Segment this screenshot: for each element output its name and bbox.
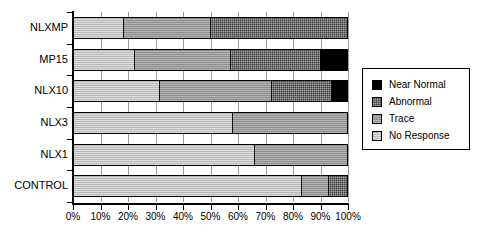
legend-item: Trace: [372, 110, 469, 127]
bar-segment: [301, 176, 328, 196]
bar-segment: [123, 18, 210, 38]
chart-figure: NLXMPMP15NLX10NLX3NLX1CONTROL 0%10%20%30…: [0, 0, 477, 232]
bar-segment: [331, 81, 347, 101]
x-axis-label: 20%: [118, 211, 138, 222]
gridline: [266, 12, 267, 202]
x-axis-label: 70%: [255, 211, 275, 222]
gridline: [238, 12, 239, 202]
x-axis-tick: [348, 205, 349, 210]
bar-segment: [210, 18, 347, 38]
legend-label: Abnormal: [389, 96, 432, 107]
gridline: [101, 12, 102, 202]
x-axis-label: 60%: [228, 211, 248, 222]
bar-segment: [74, 176, 301, 196]
legend-label: No Response: [389, 130, 450, 141]
bar-segment: [74, 50, 134, 70]
gridline: [321, 12, 322, 202]
y-axis-label: NLX1: [40, 148, 68, 160]
x-axis-tick: [156, 205, 157, 210]
x-axis-label: 40%: [173, 211, 193, 222]
gridline: [156, 12, 157, 202]
y-axis-tick: [67, 202, 73, 203]
x-axis-tick: [183, 205, 184, 210]
x-axis-tick: [293, 205, 294, 210]
y-axis-label: NLXMP: [30, 21, 68, 33]
bar-row: [73, 80, 348, 102]
bar-segment: [254, 145, 347, 165]
bar-segment: [74, 18, 123, 38]
gridline: [348, 12, 349, 202]
bar-segment: [271, 81, 331, 101]
legend: Near NormalAbnormalTraceNo Response: [362, 68, 470, 150]
bar-segment: [134, 50, 230, 70]
x-axis-label: 0%: [66, 211, 80, 222]
gridline: [183, 12, 184, 202]
bar-segment: [74, 81, 159, 101]
gridline: [211, 12, 212, 202]
x-axis-label: 80%: [283, 211, 303, 222]
legend-item: No Response: [372, 127, 469, 144]
x-axis-tick: [266, 205, 267, 210]
swatch-near-normal-icon: [372, 80, 382, 90]
bar-row: [73, 17, 348, 39]
x-axis-tick: [101, 205, 102, 210]
x-axis-tick: [211, 205, 212, 210]
bar-segment: [328, 176, 347, 196]
x-axis-tick: [238, 205, 239, 210]
swatch-trace-icon: [372, 114, 382, 124]
x-axis-tick: [128, 205, 129, 210]
plot-area: [73, 12, 348, 202]
x-axis-label: 50%: [200, 211, 220, 222]
y-axis-label: NLX10: [34, 84, 68, 96]
y-axis-label: NLX3: [40, 116, 68, 128]
x-axis-tick: [321, 205, 322, 210]
swatch-no-response-icon: [372, 131, 382, 141]
bar-segment: [320, 50, 347, 70]
x-axis-label: 30%: [145, 211, 165, 222]
y-axis-tick: [67, 75, 73, 76]
gridline: [128, 12, 129, 202]
gridline: [293, 12, 294, 202]
y-axis-tick: [67, 44, 73, 45]
bar-row: [73, 144, 348, 166]
bar-row: [73, 49, 348, 71]
y-axis-tick: [67, 139, 73, 140]
y-axis-tick: [67, 107, 73, 108]
bar-row: [73, 175, 348, 197]
swatch-abnormal-icon: [372, 97, 382, 107]
x-axis-tick: [73, 205, 74, 210]
y-axis-tick: [67, 12, 73, 13]
bar-segment: [230, 50, 320, 70]
y-axis-label: CONTROL: [14, 179, 68, 191]
x-axis-label: 90%: [310, 211, 330, 222]
x-axis-label: 10%: [90, 211, 110, 222]
legend-item: Near Normal: [372, 76, 469, 93]
x-axis-label: 100%: [335, 211, 361, 222]
bar-row: [73, 112, 348, 134]
y-axis-tick: [67, 170, 73, 171]
bar-segment: [74, 113, 232, 133]
legend-label: Trace: [389, 113, 414, 124]
bar-segment: [232, 113, 347, 133]
bar-segment: [159, 81, 271, 101]
y-axis-label: MP15: [39, 53, 68, 65]
legend-item: Abnormal: [372, 93, 469, 110]
legend-label: Near Normal: [389, 79, 446, 90]
bar-segment: [74, 145, 254, 165]
